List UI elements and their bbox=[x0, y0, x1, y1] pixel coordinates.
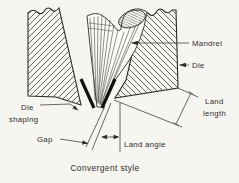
label-gap: Gap bbox=[37, 135, 53, 144]
label-die: Die bbox=[192, 61, 205, 70]
figure-convergent-die-diagram: Mandrel Die Die shaping Gap Land length … bbox=[0, 0, 239, 183]
label-land-length-line2: length bbox=[203, 109, 226, 118]
diagram-canvas: Mandrel Die Die shaping Gap Land length … bbox=[0, 0, 239, 183]
die-left-block bbox=[28, 8, 81, 105]
die-leader bbox=[179, 63, 189, 67]
label-mandrel: Mandrel bbox=[192, 39, 222, 48]
figure-caption: Convergent style bbox=[70, 163, 139, 173]
label-die-shaping-line1: Die bbox=[21, 103, 34, 112]
label-land-angle: Land angle bbox=[124, 140, 166, 149]
gap-lines bbox=[86, 103, 111, 150]
die-shaping-leader bbox=[40, 104, 79, 111]
label-land-length-line1: Land bbox=[205, 97, 224, 106]
label-die-shaping-line2: shaping bbox=[9, 115, 38, 124]
land-angle-arrows bbox=[101, 135, 120, 139]
gap-leader bbox=[60, 139, 89, 144]
